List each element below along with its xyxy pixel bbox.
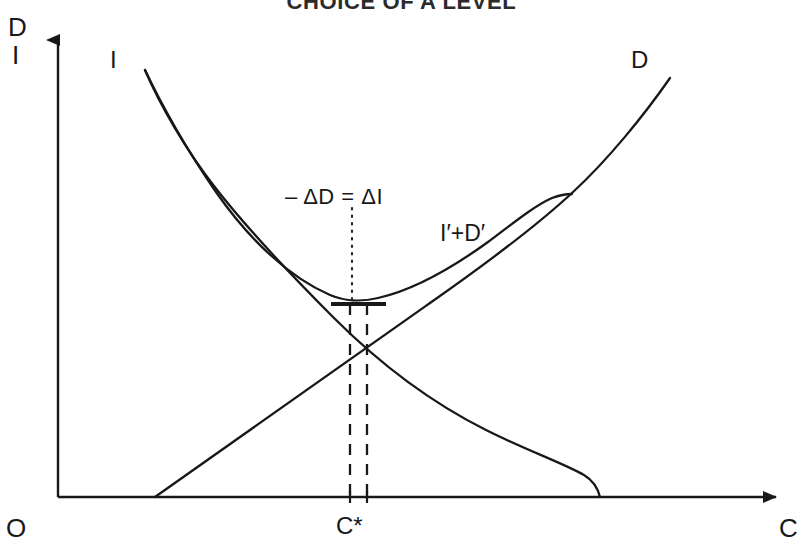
y-axis-label-d: D — [8, 14, 27, 40]
origin-label: O — [6, 515, 26, 541]
curve-label-d: D — [631, 48, 648, 72]
x-axis-tick-label-cstar: C* — [336, 514, 363, 538]
curve-label-i: I — [110, 48, 117, 72]
figure-canvas: CHOICE OF A LEVEL D I — [0, 0, 803, 558]
x-axis-label-c: C — [779, 515, 798, 541]
curve-label-sum: I′+D′ — [440, 222, 485, 245]
curve-i-path — [145, 70, 600, 497]
y-axis-label-i: I — [12, 42, 19, 68]
diagram-svg — [0, 0, 803, 558]
delta-annotation-label: – ΔD = ΔI — [285, 186, 383, 208]
